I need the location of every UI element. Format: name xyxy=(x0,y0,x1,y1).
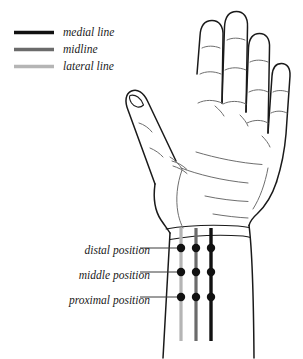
position-label-middle: middle position xyxy=(79,270,150,282)
palmar-proximal-crease xyxy=(181,168,248,183)
palmar-distal-crease xyxy=(196,152,262,165)
dot-midline-middle xyxy=(192,268,200,276)
medial-line-swatch-icon xyxy=(14,29,54,36)
legend-item-medial: medial line xyxy=(14,24,149,41)
midline-swatch-icon xyxy=(14,46,54,53)
position-label-proximal: proximal position xyxy=(69,295,150,307)
forearm-radial-border xyxy=(163,233,170,358)
middle-middle-crease xyxy=(225,68,246,70)
hand-crease-group xyxy=(139,38,288,228)
thumb-nail-outline xyxy=(130,95,144,107)
lateral-line-swatch-icon xyxy=(14,63,54,70)
index-distal-crease xyxy=(202,46,220,48)
dot-medial-middle xyxy=(207,268,215,276)
hand-outline-group xyxy=(126,12,290,359)
legend-item-lateral: lateral line xyxy=(14,58,149,75)
legend-label-lateral: lateral line xyxy=(63,61,114,73)
position-row-middle: middle position xyxy=(0,263,150,288)
index-middle-crease xyxy=(200,72,221,74)
index-proximal-crease xyxy=(198,100,222,103)
position-label-distal: distal position xyxy=(85,245,151,257)
dot-medial-distal xyxy=(207,244,215,252)
middle-finger-outline xyxy=(222,12,248,113)
position-row-distal: distal position xyxy=(0,238,150,263)
wrist-crease-upper xyxy=(166,225,249,229)
palm-minor-crease-a xyxy=(205,196,248,202)
little-distal-crease xyxy=(273,91,288,93)
dot-lateral-proximal xyxy=(177,293,185,301)
legend-item-midline: midline xyxy=(14,41,149,58)
palm-radial-border xyxy=(154,184,170,233)
thumb-outline xyxy=(126,90,176,184)
web-space-ring-little xyxy=(262,136,270,147)
position-label-group: distal position middle position proximal… xyxy=(0,238,150,313)
palm-minor-crease-b xyxy=(213,214,248,218)
position-row-proximal: proximal position xyxy=(0,288,150,313)
ring-middle-crease xyxy=(249,90,268,92)
thumb-mp-crease xyxy=(150,148,163,157)
index-finger-outline xyxy=(197,21,223,104)
forearm-ulnar-border xyxy=(249,226,254,359)
dot-lateral-middle xyxy=(177,268,185,276)
ring-distal-crease xyxy=(250,60,268,62)
anatomical-figure: medial line midline lateral line distal … xyxy=(0,0,303,359)
ring-proximal-crease xyxy=(247,120,268,123)
legend-label-medial: medial line xyxy=(63,27,114,39)
thenar-crease xyxy=(177,170,183,228)
dot-medial-proximal xyxy=(207,293,215,301)
dot-midline-proximal xyxy=(192,293,200,301)
dot-lateral-distal xyxy=(177,244,185,252)
thumb-ip-crease xyxy=(139,123,152,132)
little-middle-crease xyxy=(271,111,287,113)
dot-midline-distal xyxy=(192,244,200,252)
legend-label-midline: midline xyxy=(63,44,98,56)
middle-distal-crease xyxy=(227,38,245,40)
legend: medial line midline lateral line xyxy=(14,24,149,75)
little-finger-outline xyxy=(268,64,290,183)
web-space-index-middle xyxy=(215,106,224,116)
middle-proximal-crease xyxy=(223,101,246,104)
ring-finger-outline xyxy=(246,34,270,134)
web-space-middle-ring xyxy=(240,115,248,126)
